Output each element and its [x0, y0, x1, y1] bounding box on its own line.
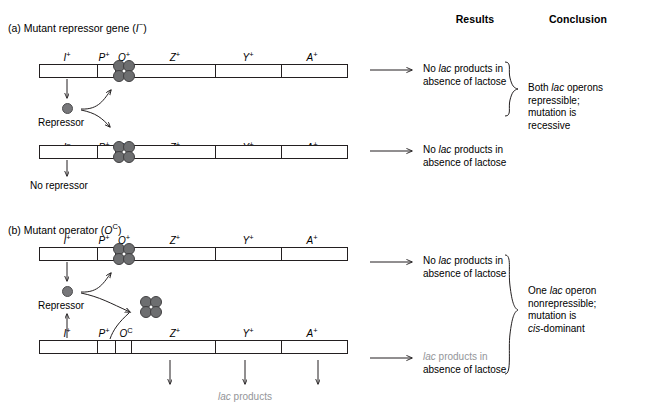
gene-segment-Y — [216, 65, 282, 77]
conclusion-text-a: Both lac operons repressible; mutation i… — [528, 82, 603, 132]
gene-segment-Y — [216, 248, 282, 260]
conclusion-prefix: One — [528, 285, 550, 296]
locus-superscript: + — [249, 50, 253, 59]
gene-segment-Z — [132, 341, 216, 353]
result-text-a1: No lac products in absence of lactose — [423, 63, 506, 88]
locus-label-a1-P: P+ — [98, 50, 109, 63]
repressor-tetramer-bound-a2 — [113, 141, 135, 163]
operon-bar-a1 — [39, 64, 348, 78]
locus-superscript: + — [176, 326, 180, 335]
locus-superscript: + — [66, 233, 70, 242]
locus-symbol: P — [98, 328, 105, 339]
gene-segment-Y — [216, 341, 282, 353]
gene-segment-A — [282, 248, 347, 260]
lac-products-label: lac products — [218, 391, 272, 403]
locus-label-b2-P: P+ — [98, 326, 109, 339]
gene-segment-O — [116, 341, 132, 353]
locus-label-b2-Y: Y+ — [242, 326, 253, 339]
result-prefix: No — [423, 255, 439, 266]
locus-superscript: + — [105, 233, 109, 242]
conclusion-line3: mutation is — [528, 310, 576, 321]
locus-superscript: C — [127, 326, 132, 335]
result-emphasis: lac — [439, 255, 452, 266]
result-suffix-gray: products in — [436, 351, 488, 362]
locus-symbol: A — [306, 235, 313, 246]
conclusion-emphasis: lac — [550, 285, 563, 296]
gene-segment-A — [282, 65, 347, 77]
locus-label-b1-A: A+ — [306, 233, 317, 246]
result-emphasis: lac — [423, 351, 436, 362]
conclusion-suffix: operons — [564, 82, 603, 93]
locus-label-a1-Z: Z+ — [170, 50, 181, 63]
locus-superscript: + — [126, 233, 130, 242]
repressor-monomer-b — [62, 286, 73, 297]
locus-label-b2-I: I+ — [63, 326, 70, 339]
locus-symbol: P — [98, 52, 105, 63]
locus-symbol: Y — [242, 52, 249, 63]
gene-segment-I — [40, 146, 98, 158]
gene-segment-P — [98, 341, 116, 353]
conclusion-line4: -dominant — [540, 323, 584, 334]
locus-superscript: + — [105, 326, 109, 335]
locus-superscript: + — [249, 233, 253, 242]
locus-label-a1-I: I+ — [63, 50, 70, 63]
locus-superscript: + — [176, 233, 180, 242]
gene-segment-I — [40, 248, 98, 260]
locus-symbol: A — [306, 52, 313, 63]
repressor-monomer-a — [62, 103, 73, 114]
locus-superscript: + — [66, 326, 70, 335]
locus-label-b2-O: OC — [119, 326, 132, 339]
panel-a-title-close: ) — [143, 22, 147, 34]
lac-operon-figure: Results Conclusion (a) Mutant repressor … — [0, 0, 655, 418]
result-text-b1: No lac products in absence of lactose — [423, 255, 506, 280]
gene-segment-I — [40, 65, 98, 77]
result-text-a2: No lac products in absence of lactose — [423, 144, 506, 169]
locus-superscript: + — [313, 233, 317, 242]
conclusion-column-heading: Conclusion — [549, 13, 607, 25]
repressor-tetramer-bound-b1 — [113, 243, 135, 265]
locus-superscript: + — [313, 50, 317, 59]
result-line2: absence of lactose — [423, 268, 506, 279]
repressor-label-a: Repressor — [38, 117, 84, 129]
gene-segment-Z — [130, 65, 216, 77]
result-suffix: products in — [451, 63, 503, 74]
locus-superscript: + — [66, 50, 70, 59]
gene-segment-I — [40, 341, 98, 353]
locus-label-b2-A: A+ — [306, 326, 317, 339]
result-suffix: products in — [451, 144, 503, 155]
gene-segment-Z — [130, 248, 216, 260]
lac-products-text: products — [231, 391, 272, 402]
result-line2: absence of lactose — [423, 76, 506, 87]
locus-superscript: + — [126, 50, 130, 59]
repressor-label-b: Repressor — [38, 300, 84, 312]
conclusion-line4-emphasis: cis — [528, 323, 540, 334]
repressor-tetramer-free-b — [140, 296, 162, 318]
locus-label-b2-Z: Z+ — [170, 326, 181, 339]
gene-segment-A — [282, 341, 347, 353]
result-text-b2: lac products in absence of lactose — [423, 351, 506, 376]
lac-products-emphasis: lac — [218, 391, 231, 402]
panel-a-title-text: (a) Mutant repressor gene ( — [8, 22, 136, 34]
locus-superscript: + — [176, 50, 180, 59]
repressor-tetramer-bound-a1 — [113, 60, 135, 82]
locus-symbol: P — [98, 235, 105, 246]
result-prefix: No — [423, 63, 439, 74]
locus-symbol: Y — [242, 235, 249, 246]
conclusion-text-b: One lac operon nonrepressible; mutation … — [528, 285, 596, 335]
gene-segment-Y — [216, 146, 282, 158]
no-repressor-label-a2: No repressor — [30, 180, 88, 192]
locus-label-b1-Z: Z+ — [170, 233, 181, 246]
panel-b-title-text: (b) Mutant operator ( — [8, 224, 104, 236]
locus-label-a1-A: A+ — [306, 50, 317, 63]
locus-superscript: + — [105, 50, 109, 59]
conclusion-line4: recessive — [528, 120, 570, 131]
result-prefix: No — [423, 144, 439, 155]
locus-symbol: A — [306, 328, 313, 339]
conclusion-line2: repressible; — [528, 95, 580, 106]
result-line2: absence of lactose — [423, 157, 506, 168]
locus-superscript: + — [249, 326, 253, 335]
operon-bar-a2 — [39, 145, 348, 159]
gene-segment-Z — [130, 146, 216, 158]
locus-superscript: + — [313, 326, 317, 335]
gene-segment-A — [282, 146, 347, 158]
